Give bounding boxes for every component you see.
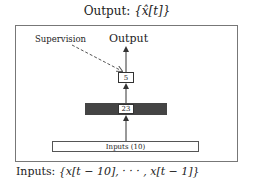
inputs-caption-math: {x[t − 10], · · · , x[t − 1]} <box>59 165 200 178</box>
supervision-label: Supervision <box>35 34 86 44</box>
inputs-caption: Inputs: {x[t − 10], · · · , x[t − 1]} <box>16 165 200 178</box>
output-label: Output <box>109 32 148 45</box>
hidden-node: 23 <box>118 104 134 114</box>
supervision-arrow <box>72 45 120 70</box>
input-layer: Inputs (10) <box>52 141 199 152</box>
connection-arrows <box>0 0 254 191</box>
inputs-caption-prefix: Inputs: <box>16 165 59 178</box>
output-node: 5 <box>118 72 134 83</box>
